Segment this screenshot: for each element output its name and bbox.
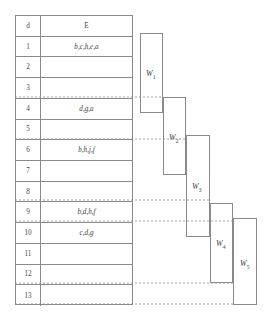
table-row-value-cell [41, 120, 132, 140]
w-box-label-name: W [240, 259, 247, 268]
w-box-label-name: W [146, 69, 153, 78]
table-row-index-cell: 3 [16, 78, 41, 98]
w-box-label-4: W4 [216, 239, 225, 250]
table-row-index-cell: 10 [16, 223, 41, 243]
table-row-value-cell [41, 78, 132, 98]
w-box-label-2: W2 [169, 133, 178, 144]
w-box-label-1: W1 [146, 69, 155, 80]
table-row: 8 [16, 182, 132, 203]
table-row-index-cell: 2 [16, 57, 41, 77]
table-row-value-cell [41, 161, 132, 181]
table-row: 10c,d,g [16, 223, 132, 244]
table-row-index-cell: 5 [16, 120, 41, 140]
w-box-label-subscript: 2 [176, 138, 179, 144]
table-row: 6b,h,j,f [16, 140, 132, 161]
diagram-canvas: dE1b,c,h,e,a234d,g,a56b,h,j,f789b,d,h,f1… [0, 0, 272, 319]
table-row-value-cell [41, 244, 132, 264]
interval-table: dE1b,c,h,e,a234d,g,a56b,h,j,f789b,d,h,f1… [15, 15, 133, 305]
table-row-index-cell: 8 [16, 182, 41, 202]
w-box-label-name: W [169, 133, 176, 142]
table-row: 7 [16, 161, 132, 182]
table-row-index-cell: 1 [16, 37, 41, 57]
table-row: 3 [16, 78, 132, 99]
table-row-value-cell [41, 285, 132, 306]
table-row-index-cell: 6 [16, 140, 41, 160]
w-box-label-subscript: 5 [247, 264, 250, 270]
table-row-value-cell [41, 182, 132, 202]
table-row: 4d,g,a [16, 99, 132, 120]
table-row: 13 [16, 285, 132, 306]
table-header-row: dE [16, 16, 132, 37]
w-box-label-5: W5 [240, 259, 249, 270]
table-row-index-cell: 7 [16, 161, 41, 181]
table-header-index-cell: d [16, 16, 41, 36]
w-box-label-3: W3 [192, 182, 201, 193]
table-row: 2 [16, 57, 132, 78]
table-row-value-cell: d,g,a [41, 99, 132, 119]
table-row: 9b,d,h,f [16, 202, 132, 223]
table-row: 1b,c,h,e,a [16, 37, 132, 58]
table-row-value-cell: b,d,h,f [41, 202, 132, 222]
table-row-value-cell [41, 265, 132, 285]
table-header-value-cell: E [41, 16, 132, 36]
table-row-index-cell: 11 [16, 244, 41, 264]
table-row-index-cell: 13 [16, 285, 41, 306]
w-box-label-name: W [192, 182, 199, 191]
w-box-label-subscript: 4 [223, 244, 226, 250]
table-row-index-cell: 9 [16, 202, 41, 222]
table-row-value-cell: b,h,j,f [41, 140, 132, 160]
table-row: 12 [16, 265, 132, 286]
w-box-label-subscript: 1 [153, 74, 156, 80]
table-row-value-cell: c,d,g [41, 223, 132, 243]
table-row-value-cell: b,c,h,e,a [41, 37, 132, 57]
table-row-index-cell: 4 [16, 99, 41, 119]
w-box-label-subscript: 3 [199, 187, 202, 193]
table-row-value-cell [41, 57, 132, 77]
table-row: 5 [16, 120, 132, 141]
w-box-label-name: W [216, 239, 223, 248]
table-row: 11 [16, 244, 132, 265]
table-row-index-cell: 12 [16, 265, 41, 285]
